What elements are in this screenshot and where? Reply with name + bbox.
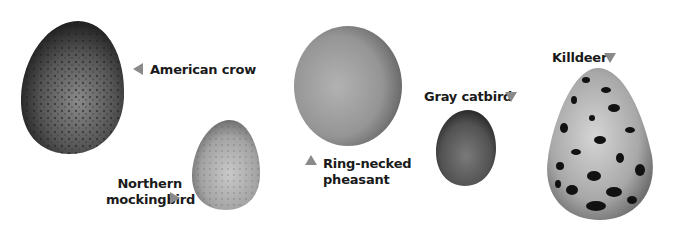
arrow-right-icon — [170, 192, 180, 204]
label-ring-necked-pheasant: Ring-necked pheasant — [323, 156, 411, 188]
arrow-down-icon — [505, 92, 517, 102]
label-american-crow: American crow — [150, 62, 256, 78]
killdeer-egg — [544, 66, 656, 222]
northern-mockingbird-egg — [190, 118, 262, 212]
label-killdeer: Killdeer — [552, 50, 607, 66]
american-crow-egg — [18, 18, 128, 158]
arrow-down-icon — [604, 53, 616, 63]
ring-necked-pheasant-egg — [292, 24, 404, 148]
label-line-1: Northern — [106, 176, 182, 192]
gray-catbird-egg — [434, 108, 498, 188]
label-line-2: pheasant — [323, 172, 411, 188]
label-gray-catbird: Gray catbird — [424, 89, 512, 105]
arrow-left-icon — [133, 63, 143, 75]
label-line-1: Ring-necked — [323, 156, 411, 172]
arrow-up-icon — [305, 155, 317, 165]
